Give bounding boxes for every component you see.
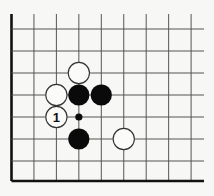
stones-layer: 1 [46, 62, 135, 149]
point-marker-dot [75, 113, 82, 120]
black-stone [68, 128, 89, 149]
black-stone-disc [91, 84, 112, 105]
white-stone-disc [68, 62, 89, 83]
go-board: 1 [0, 0, 214, 196]
markers-layer [75, 113, 82, 120]
black-stone-disc [68, 128, 89, 149]
white-stone [46, 84, 67, 105]
move-number-label: 1 [53, 110, 60, 125]
white-stone [113, 128, 134, 149]
black-stone-disc [68, 84, 89, 105]
white-stone: 1 [46, 106, 67, 127]
black-stone [91, 84, 112, 105]
white-stone-disc [113, 128, 134, 149]
black-stone [68, 84, 89, 105]
white-stone-disc [46, 84, 67, 105]
white-stone [68, 62, 89, 83]
